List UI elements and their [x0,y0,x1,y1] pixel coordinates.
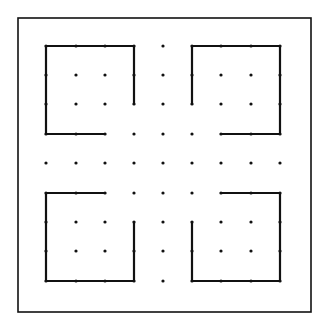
grid-dot [161,279,164,282]
grid-dot [74,73,77,76]
grid-dot [161,102,164,105]
grid-dot [44,73,47,76]
grid-dot [161,132,164,135]
grid-dot [278,132,281,135]
grid-dot [249,279,252,282]
grid-dot [161,191,164,194]
grid-dot [278,249,281,252]
top-left-open-square [46,46,134,134]
grid-dot [44,102,47,105]
grid-dot [74,220,77,223]
grid-dot [190,191,193,194]
grid-dot [132,44,135,47]
grid-dot [219,132,222,135]
grid-dot [278,102,281,105]
grid-dot [249,132,252,135]
grid-dot [219,220,222,223]
dot-grid-diagram [0,0,328,329]
bottom-left-open-square [46,193,134,281]
grid-dot [44,220,47,223]
grid-dot [74,102,77,105]
grid-dot [190,132,193,135]
grid-dot [249,44,252,47]
bottom-right-open-square [192,193,280,281]
grid-dot [190,249,193,252]
grid-dot [278,220,281,223]
grid-dot [190,161,193,164]
grid-dot [278,44,281,47]
grid-dot [278,161,281,164]
grid-dot [219,161,222,164]
grid-dot [74,249,77,252]
grid-dot [219,44,222,47]
grid-dot [132,161,135,164]
grid-dot [219,73,222,76]
grid-dot [44,279,47,282]
grid-dot [103,132,106,135]
grid-dot [132,132,135,135]
grid-dot [190,279,193,282]
grid-dot [132,249,135,252]
grid-dot [249,191,252,194]
grid-dot [190,102,193,105]
grid-dot [44,44,47,47]
outer-frame [18,18,311,312]
grid-dot [161,161,164,164]
grid-dot [44,249,47,252]
grid-dot [74,132,77,135]
grid-dot [190,220,193,223]
grid-dot [132,102,135,105]
grid-dot [249,249,252,252]
grid-dot [219,279,222,282]
grid-dot [190,44,193,47]
grid-dot [103,279,106,282]
grid-dot [219,102,222,105]
grid-dot [278,73,281,76]
grid-dot [161,44,164,47]
grid-dot [132,191,135,194]
grid-dot [103,102,106,105]
grid-dot [103,191,106,194]
grid-dot [74,161,77,164]
grid-dot [103,73,106,76]
grid-dot [161,220,164,223]
grid-dot [132,279,135,282]
top-right-open-square [192,46,280,134]
grid-dot [190,73,193,76]
dot-grid [44,44,281,282]
grid-dot [103,44,106,47]
grid-dot [44,161,47,164]
grid-dot [249,102,252,105]
grid-dot [132,220,135,223]
grid-dot [219,249,222,252]
grid-dot [249,220,252,223]
grid-dot [103,249,106,252]
grid-dot [74,191,77,194]
grid-dot [161,73,164,76]
grid-dot [249,161,252,164]
grid-dot [44,191,47,194]
grid-dot [278,279,281,282]
grid-dot [249,73,252,76]
grid-dot [278,191,281,194]
grid-dot [161,249,164,252]
grid-dot [132,73,135,76]
grid-dot [74,279,77,282]
grid-dot [219,191,222,194]
grid-dot [103,220,106,223]
grid-dot [74,44,77,47]
grid-dot [44,132,47,135]
grid-dot [103,161,106,164]
